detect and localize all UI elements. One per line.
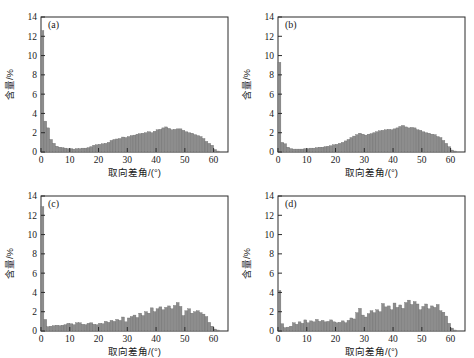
- histogram-bar: [436, 137, 439, 152]
- histogram-bar: [430, 134, 433, 152]
- x-tick-label: 40: [388, 155, 398, 165]
- histogram-bar: [425, 304, 428, 331]
- y-axis-title: 含量/%: [241, 68, 252, 100]
- y-tick-label: 6: [32, 269, 37, 279]
- panel-c: 010203040506002468101214取向差角/(°)含量/%(c): [0, 179, 237, 358]
- x-axis-title: 取向差角/(°): [345, 346, 398, 357]
- histogram-bar: [384, 307, 387, 331]
- histogram-bar: [55, 325, 58, 331]
- histogram-bar: [310, 148, 313, 152]
- histogram-bar: [315, 319, 318, 331]
- histogram-bar: [93, 145, 96, 152]
- histogram-bar: [344, 141, 347, 152]
- histogram-bar: [168, 128, 171, 152]
- histogram-bar: [376, 310, 379, 331]
- histogram-bar: [295, 324, 298, 331]
- histogram-bar: [284, 144, 287, 152]
- histogram-bar: [428, 133, 431, 152]
- histogram-bar: [347, 320, 350, 331]
- y-tick-label: 8: [269, 249, 274, 259]
- x-tick-label: 20: [331, 334, 341, 344]
- histogram-bar: [278, 62, 281, 152]
- histogram-bar: [295, 149, 298, 152]
- histogram-bar: [76, 149, 79, 152]
- histogram-bar: [165, 127, 168, 152]
- y-tick-label: 6: [32, 90, 37, 100]
- histogram-bar: [413, 302, 416, 331]
- panel-letter-label: (a): [48, 19, 59, 31]
- histogram-bar: [290, 326, 293, 331]
- histogram-bar: [110, 320, 113, 331]
- figure-four-panel-histograms: 010203040506002468101214取向差角/(°)含量/%(a) …: [0, 0, 474, 358]
- x-tick-label: 60: [446, 155, 456, 165]
- histogram-bar: [405, 127, 408, 152]
- histogram-bar: [315, 148, 318, 152]
- histogram-bar: [165, 307, 168, 331]
- y-tick-label: 4: [32, 288, 37, 298]
- histogram-bar: [50, 326, 53, 331]
- histogram-bar: [47, 327, 50, 331]
- histogram-bar: [430, 306, 433, 331]
- histogram-bar: [356, 135, 359, 152]
- y-tick-label: 14: [265, 191, 275, 201]
- histogram-bar: [442, 140, 445, 152]
- histogram-bar: [90, 323, 93, 331]
- histogram-bar: [87, 148, 90, 152]
- histogram-bar: [373, 313, 376, 331]
- y-axis-title: 含量/%: [4, 68, 15, 100]
- histogram-bar: [139, 313, 142, 331]
- x-axis-title: 取向差角/(°): [345, 167, 398, 178]
- histogram-bar: [387, 129, 390, 152]
- panel-b: 010203040506002468101214取向差角/(°)含量/%(b): [237, 0, 474, 179]
- x-tick-label: 60: [209, 155, 219, 165]
- histogram-bar: [50, 139, 53, 152]
- histogram-bar: [442, 312, 445, 331]
- histogram-bar: [313, 148, 316, 152]
- y-tick-label: 12: [28, 211, 38, 221]
- histogram-bar: [73, 325, 76, 331]
- histogram-bar: [173, 129, 176, 152]
- x-tick-label: 0: [276, 334, 281, 344]
- histogram-bar: [173, 305, 176, 331]
- histogram-bar: [61, 325, 64, 331]
- histogram-bar: [338, 322, 341, 331]
- histogram-bar: [353, 136, 356, 152]
- histogram-bar: [87, 323, 90, 331]
- x-tick-label: 20: [94, 155, 104, 165]
- histogram-bar: [179, 306, 182, 331]
- histogram-bar: [162, 310, 165, 331]
- histogram-bar: [53, 326, 56, 331]
- y-tick-label: 2: [269, 307, 274, 317]
- x-tick-label: 10: [302, 155, 312, 165]
- histogram-bar: [281, 324, 284, 331]
- histogram-bar: [428, 309, 431, 331]
- histogram-bar: [407, 128, 410, 152]
- histogram-bar: [402, 125, 405, 152]
- histogram-bar: [205, 317, 208, 331]
- histogram-bar: [439, 138, 442, 152]
- histogram-bar: [287, 147, 290, 152]
- histogram-bar: [416, 304, 419, 331]
- histogram-bar: [330, 146, 333, 152]
- x-tick-label: 50: [180, 155, 190, 165]
- y-tick-label: 12: [265, 32, 275, 42]
- histogram-bar: [416, 130, 419, 152]
- histogram-bar: [139, 134, 142, 152]
- panel-a: 010203040506002468101214取向差角/(°)含量/%(a): [0, 0, 237, 179]
- histogram-bar: [136, 318, 139, 332]
- histogram-bar: [110, 140, 113, 152]
- x-tick-label: 20: [331, 155, 341, 165]
- histogram-bar: [196, 311, 199, 331]
- histogram-bar: [387, 306, 390, 331]
- histogram-bar: [202, 314, 205, 331]
- histogram-bar: [90, 147, 93, 152]
- y-tick-label: 0: [269, 147, 274, 157]
- histogram-bar: [399, 126, 402, 152]
- histogram-bar: [379, 131, 382, 152]
- histogram-bar: [373, 133, 376, 152]
- histogram-bar: [55, 146, 58, 152]
- histogram-bar: [318, 321, 321, 331]
- x-tick-label: 60: [209, 334, 219, 344]
- histogram-bar: [359, 308, 362, 331]
- histogram-bar: [104, 321, 107, 331]
